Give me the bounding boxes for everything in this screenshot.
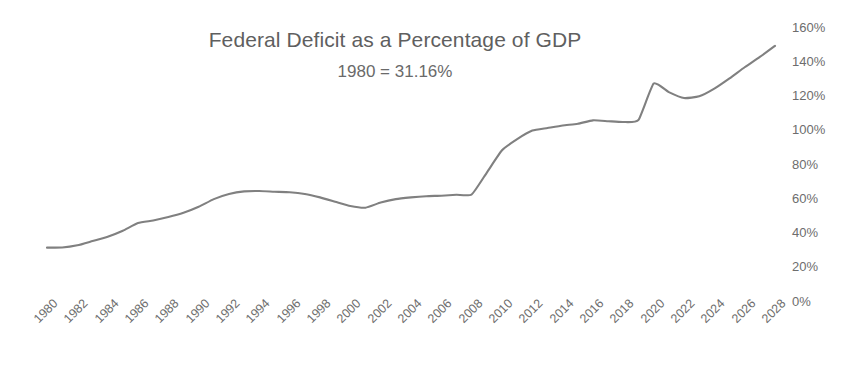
- y-axis-tick: 0%: [792, 295, 840, 308]
- data-series-line: [47, 46, 775, 248]
- y-axis-labels: 160%140%120%100%80%60%40%20%0%: [792, 0, 846, 312]
- y-axis-tick: 140%: [792, 55, 840, 68]
- y-axis-tick: 20%: [792, 260, 840, 273]
- line-chart-svg: [0, 0, 790, 310]
- y-axis-tick: 100%: [792, 123, 840, 136]
- y-axis-tick: 40%: [792, 226, 840, 239]
- y-axis-tick: 80%: [792, 158, 840, 171]
- chart-page: Federal Deficit as a Percentage of GDP 1…: [0, 0, 846, 384]
- plot-area: [0, 0, 790, 310]
- y-axis-tick: 160%: [792, 21, 840, 34]
- y-axis-tick: 60%: [792, 192, 840, 205]
- y-axis-tick: 120%: [792, 89, 840, 102]
- x-axis-labels: 1980198219841986198819901992199419961998…: [0, 302, 790, 384]
